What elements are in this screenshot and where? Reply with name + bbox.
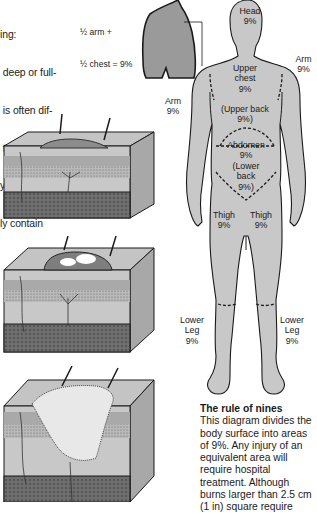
label-lower-leg-left: Lower Leg 9% bbox=[174, 315, 210, 346]
skin-diagram-full-thickness bbox=[0, 366, 160, 502]
label-head: Head 9% bbox=[230, 6, 270, 27]
caption-title: The rule of nines bbox=[200, 403, 317, 415]
skin-diagram-partial-thickness bbox=[0, 236, 160, 356]
skin-diagram-superficial bbox=[0, 112, 160, 228]
label-arm-left: Arm 9% bbox=[158, 96, 188, 117]
label-thigh-right: Thigh 9% bbox=[244, 210, 278, 231]
rule-of-nines-caption: The rule of nines This diagram divides t… bbox=[200, 403, 317, 514]
inset-label: ½ arm + ½ chest = 9% bbox=[80, 6, 132, 80]
label-arm-right: Arm 9% bbox=[290, 54, 317, 75]
label-abdomen: Abdomen 9% bbox=[220, 140, 272, 161]
label-thigh-left: Thigh 9% bbox=[207, 210, 241, 231]
label-upper-chest: Upper chest 9% bbox=[222, 63, 268, 94]
label-lower-leg-right: Lower Leg 9% bbox=[274, 315, 310, 346]
label-lower-back: (Lower back 9%) bbox=[220, 161, 272, 192]
caption-body: This diagram divides the body surface in… bbox=[200, 415, 312, 512]
label-upper-back: (Upper back 9%) bbox=[212, 104, 278, 125]
